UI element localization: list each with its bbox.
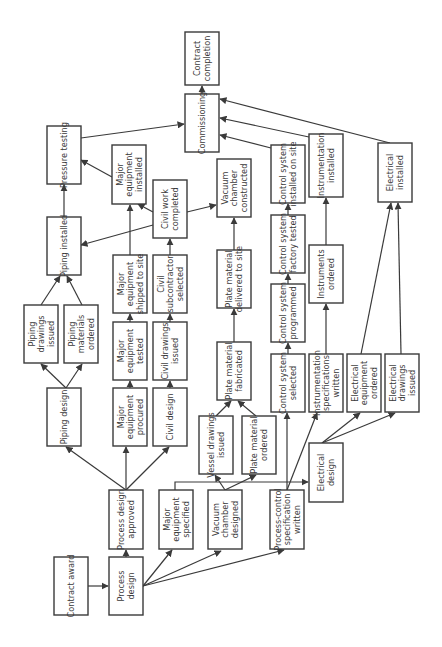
node-label: Plate materialdelivered to site	[224, 246, 244, 312]
node-major-equipment-specified: Majorequipmentspecified	[159, 490, 193, 549]
node-civil-drawings-issued: Civil drawingsissued	[153, 322, 187, 380]
node-contract-award: Contract award	[54, 555, 88, 618]
dependency-arrow	[41, 276, 60, 305]
node-plate-material-ordered: Plate materialordered	[242, 416, 276, 474]
node-plate-material-fabricated: Plate materialfabricated	[217, 342, 251, 400]
dependency-arrow	[361, 203, 391, 354]
node-contract-completion: Contractcompletion	[185, 32, 219, 85]
node-label: Electricaldesign	[316, 454, 336, 492]
node-civil-subcontractor-selected: Civilsubcontractorselected	[153, 255, 187, 313]
node-control-system-programmed: Control systemprogrammed	[271, 282, 305, 344]
dependency-arrow	[41, 364, 66, 388]
node-label: Civil workcompleted	[160, 187, 180, 230]
activity-nodes: Contract awardProcessdesignProcess desig…	[24, 32, 419, 617]
dependency-arrow	[216, 401, 231, 416]
node-electrical-equipment-ordered: Electricalequipmentordered	[347, 354, 381, 412]
node-control-system-factory-tested: Control systemfactory tested	[271, 213, 305, 275]
node-label: Control systeminstalled on site	[278, 142, 298, 207]
node-label: Electricalinstalled	[385, 154, 405, 192]
node-label: Plate materialfabricated	[224, 342, 244, 399]
node-control-system-selected: Control systemselected	[271, 352, 305, 414]
dependency-arrow	[66, 364, 82, 388]
dependency-arrow	[322, 413, 360, 443]
node-civil-work-completed: Civil workcompleted	[153, 180, 187, 238]
node-major-equipment-installed: Majorequipmentinstalled	[112, 145, 146, 204]
node-instruments-ordered: Instrumentsordered	[309, 245, 343, 303]
node-piping-design: Piping design	[47, 388, 81, 446]
dependency-arrow	[143, 550, 284, 586]
dependency-arrow	[220, 118, 309, 137]
node-process-design: Processdesign	[109, 557, 143, 615]
node-label: Vacuumchamberdesigned	[211, 501, 240, 538]
activity-network-diagram: Contract awardProcessdesignProcess desig…	[0, 0, 442, 647]
node-electrical-design: Electricaldesign	[309, 443, 343, 502]
node-piping-installed: Piping installed	[47, 215, 81, 277]
node-label: Civil design	[165, 393, 175, 440]
node-process-control-spec: Process-controlspecificationwritten	[270, 488, 304, 550]
node-plate-material-delivered: Plate materialdelivered to site	[217, 246, 251, 312]
node-label: Piping design	[59, 390, 69, 445]
dependency-arrow	[126, 447, 169, 490]
dependency-arrow	[67, 276, 82, 305]
node-label: Processdesign	[116, 570, 136, 601]
node-label: Contractcompletion	[192, 36, 212, 82]
dependency-arrow	[398, 203, 401, 354]
dependency-arrow	[66, 447, 126, 490]
node-instrumentation-specs: Instrumentationspecificationswritten	[309, 350, 343, 416]
node-label: Pressure testing	[59, 122, 69, 188]
node-electrical-installed: Electricalinstalled	[378, 143, 412, 202]
node-control-system-installed: Control systeminstalled on site	[271, 142, 305, 207]
dependency-arrow	[81, 124, 184, 138]
dependency-arrow	[138, 204, 153, 212]
node-major-equipment-procured: Majorequipmentprocured	[113, 388, 147, 446]
node-label: Contract award	[66, 555, 76, 618]
node-civil-design: Civil design	[153, 388, 187, 446]
node-commissioning: Commissioning	[185, 92, 219, 155]
node-instrumentation-installed: Instrumentationinstalled	[309, 133, 343, 199]
dependency-arrow	[143, 550, 172, 586]
node-label: Commissioning	[197, 92, 207, 155]
node-vacuum-chamber-designed: Vacuumchamberdesigned	[208, 490, 242, 549]
dependency-arrow	[81, 160, 112, 177]
node-process-design-approved: Process designapproved	[109, 489, 143, 550]
node-piping-drawings-issued: Pipingdrawingsissued	[24, 305, 58, 363]
node-label: Control systemprogrammed	[278, 282, 298, 344]
node-piping-materials-ordered: Pipingmaterialsordered	[64, 305, 98, 363]
node-electrical-drawings-issued: Electricaldrawingsissued	[385, 354, 419, 412]
dependency-arrow	[81, 225, 153, 245]
node-major-equipment-tested: Majorequipmenttested	[113, 322, 147, 380]
dependency-arrow	[238, 401, 256, 416]
node-label: Control systemfactory tested	[278, 213, 298, 275]
dependency-arrow	[322, 413, 395, 443]
dependency-arrow	[220, 135, 271, 148]
node-major-equipment-shipped: Majorequipmentshipped to site	[113, 254, 147, 315]
node-label: Piping installed	[59, 215, 69, 277]
dependency-arrow	[187, 205, 216, 212]
node-vacuum-chamber-constructed: Vacuumchamberconstructed	[217, 159, 251, 217]
node-vessel-drawings-issued: Vessel drawingsissued	[199, 412, 233, 478]
node-pressure-testing: Pressure testing	[47, 122, 81, 188]
